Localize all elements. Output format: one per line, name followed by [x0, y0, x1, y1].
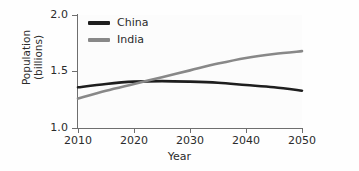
- y-axis-title: Population (billions): [21, 18, 44, 98]
- x-tick-label-2040: 2040: [232, 135, 260, 147]
- legend-swatch-china-icon: [88, 21, 110, 25]
- y-tick-mark-1: [72, 71, 77, 72]
- x-tick-mark-2010: [78, 128, 79, 133]
- x-tick-mark-2040: [246, 128, 247, 133]
- y-tick-label-1: 1.5: [50, 65, 68, 76]
- legend-label-china: China: [117, 17, 148, 29]
- chart-legend: China India: [88, 16, 148, 46]
- x-tick-label-2020: 2020: [120, 135, 148, 147]
- y-tick-mark-2: [72, 15, 77, 16]
- x-tick-label-2010: 2010: [64, 135, 92, 147]
- legend-item-india: India: [88, 33, 148, 46]
- legend-label-india: India: [117, 34, 144, 46]
- y-tick-label-2: 2.0: [50, 9, 68, 20]
- legend-swatch-india-icon: [88, 38, 110, 42]
- x-axis-title: Year: [0, 150, 359, 163]
- x-tick-mark-2020: [134, 128, 135, 133]
- y-tick-mark-0: [72, 128, 77, 129]
- legend-item-china: China: [88, 16, 148, 29]
- x-tick-mark-2030: [190, 128, 191, 133]
- y-tick-label-0: 1.0: [50, 122, 68, 133]
- population-line-chart: 2.0 1.5 1.0 2010 2020 2030 2040 2050 Yea…: [0, 0, 359, 171]
- y-axis-line: [77, 14, 78, 129]
- x-tick-label-2050: 2050: [288, 135, 316, 147]
- y-axis-title-line1: Population: [21, 18, 33, 98]
- y-axis-title-line2: (billions): [32, 18, 44, 98]
- x-tick-mark-2050: [302, 128, 303, 133]
- x-tick-label-2030: 2030: [176, 135, 204, 147]
